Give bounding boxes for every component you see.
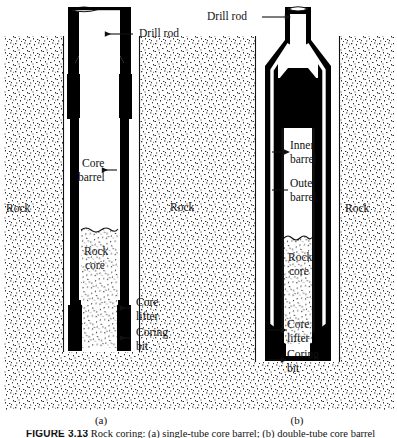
panel-a-shoulder-block-right [119, 74, 132, 119]
panel-b-inner-head-plug [279, 68, 317, 128]
label-panel-a-coring-bit-line2: bit [136, 340, 149, 352]
label-panel-a-core-lifter-line2: lifter [136, 310, 159, 322]
label-panel-b-core-lifter-line1: Core [287, 318, 309, 330]
label-panel-a-drill-rod: Drill rod [139, 27, 179, 39]
panel-letter-b: (b) [291, 414, 304, 427]
rock-mass-left [4, 36, 63, 410]
label-panel-a-coring-bit-line1: Coring [136, 326, 168, 339]
figure-root: Drill rod Core barrel Rock Rock core Cor… [0, 0, 397, 438]
figure-caption-label: FIGURE 3.13 [26, 430, 88, 438]
label-panel-b-rock-right: Rock [345, 202, 370, 214]
panel-a-shoulder-block-left [67, 74, 80, 119]
label-panel-b-outer-barrel-line1: Outer [290, 177, 316, 189]
panel-a-coring-bit-left [68, 305, 82, 351]
label-panel-b-core-lifter-line2: lifter [287, 332, 310, 344]
panel-a-core-barrel-wall-right [120, 118, 129, 305]
label-panel-a-rock-core-line1: Rock [84, 245, 109, 257]
label-panel-b-inner-barrel-line2: barrel [290, 153, 317, 165]
figure-caption: FIGURE 3.13 Rock coring: (a) single-tube… [26, 430, 375, 438]
label-rock-middle: Rock [170, 201, 195, 213]
label-panel-b-rock-core-line1: Rock [288, 251, 313, 263]
panel-b-inner-barrel-wall-left [282, 128, 284, 356]
panel-a-drill-rod-top-rim [68, 7, 131, 10]
rock-mass-group [4, 36, 394, 410]
label-panel-a-rock-left: Rock [6, 202, 31, 214]
label-panel-b-coring-bit-line2: bit [287, 362, 300, 374]
label-panel-a-core-barrel-line1: Core [82, 157, 104, 169]
figure-caption-clip: FIGURE 3.13 Rock coring: (a) single-tube… [0, 430, 397, 438]
label-panel-b-outer-barrel-line2: barrel [290, 191, 317, 203]
label-panel-a-core-lifter-line1: Core [136, 296, 158, 308]
figure-caption-rest: Rock coring: (a) single-tube core barrel… [91, 430, 375, 438]
label-panel-b-rock-core-line2: core [289, 265, 309, 277]
label-panel-a-rock-core-line2: core [85, 259, 105, 271]
panel-letter-a: (a) [95, 414, 108, 427]
panel-a-coring-bit-right [117, 305, 131, 351]
label-panel-a-core-barrel-line2: barrel [78, 171, 105, 183]
rock-mass-below-a [63, 352, 140, 410]
rock-mass-middle [140, 36, 255, 410]
panel-a-core-barrel-wall-left [70, 118, 79, 305]
label-panel-b-inner-barrel-line1: Inner [290, 139, 314, 151]
label-panel-b-drill-rod: Drill rod [207, 10, 247, 22]
panel-a-wall-relief-left [79, 118, 81, 305]
rock-coring-diagram: Drill rod Core barrel Rock Rock core Cor… [0, 0, 397, 438]
panel-a-wall-relief-right [118, 118, 120, 305]
label-panel-b-coring-bit-line1: Coring [287, 348, 319, 361]
rock-mass-right [340, 36, 394, 410]
panel-b-drill-rod-top-cap [288, 7, 308, 11]
